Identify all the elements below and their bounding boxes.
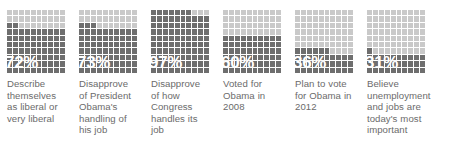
waffle-cell xyxy=(391,29,396,34)
waffle-cell xyxy=(258,36,263,41)
waffle-cell xyxy=(235,10,240,15)
waffle-cell xyxy=(132,55,137,60)
waffle-cell xyxy=(295,29,300,34)
waffle-cell xyxy=(336,61,341,66)
waffle-cell xyxy=(385,10,390,15)
stat-unit: 73% Disapprove of President Obama's hand… xyxy=(79,10,137,136)
stat-unit: 60% Voted for Obama in 2008 xyxy=(223,10,281,113)
waffle-cell xyxy=(109,23,114,28)
waffle-cell xyxy=(342,61,347,66)
waffle-cell xyxy=(379,42,384,47)
waffle-cell xyxy=(60,68,65,73)
waffle-cell xyxy=(60,23,65,28)
waffle-cell xyxy=(235,23,240,28)
waffle-cell xyxy=(402,10,407,15)
waffle-cell xyxy=(253,42,258,47)
waffle-grid: 60% xyxy=(223,10,281,73)
waffle-cell xyxy=(169,29,174,34)
waffle-cell xyxy=(132,16,137,21)
waffle-cell xyxy=(25,10,30,15)
waffle-cell xyxy=(120,48,125,53)
waffle-cell xyxy=(126,36,131,41)
waffle-cell xyxy=(204,68,209,73)
waffle-cell xyxy=(325,16,330,21)
waffle-cell xyxy=(37,29,42,34)
waffle-cell xyxy=(420,48,425,53)
waffle-cell xyxy=(270,16,275,21)
waffle-cell xyxy=(186,42,191,47)
waffle-cell xyxy=(103,10,108,15)
waffle-cell xyxy=(253,36,258,41)
waffle-cell xyxy=(342,42,347,47)
waffle-cell xyxy=(379,36,384,41)
waffle-cell xyxy=(186,36,191,41)
waffle-cell xyxy=(126,48,131,53)
waffle-cell xyxy=(198,23,203,28)
waffle-cell xyxy=(420,29,425,34)
stat-caption: Describe themselves as liberal or very l… xyxy=(7,78,65,124)
waffle-cell xyxy=(48,16,53,21)
waffle-cell xyxy=(408,42,413,47)
waffle-cell xyxy=(48,10,53,15)
waffle-cell xyxy=(402,36,407,41)
waffle-cell xyxy=(42,16,47,21)
waffle-cell xyxy=(114,42,119,47)
waffle-cell xyxy=(270,36,275,41)
waffle-cell xyxy=(241,10,246,15)
waffle-cell xyxy=(313,16,318,21)
waffle-cell xyxy=(367,16,372,21)
waffle-cell xyxy=(307,10,312,15)
waffle-cell xyxy=(223,36,228,41)
waffle-cell xyxy=(295,42,300,47)
waffle-cell xyxy=(247,23,252,28)
waffle-cell xyxy=(91,23,96,28)
waffle-cell xyxy=(120,68,125,73)
waffle-cell xyxy=(414,55,419,60)
waffle-cell xyxy=(126,29,131,34)
waffle-cell xyxy=(198,61,203,66)
waffle-cell xyxy=(198,29,203,34)
stat-value-label: 36% xyxy=(295,54,326,71)
waffle-cell xyxy=(391,36,396,41)
waffle-cell xyxy=(169,10,174,15)
waffle-cell xyxy=(25,42,30,47)
waffle-cell xyxy=(348,36,353,41)
stat-unit: 72% Describe themselves as liberal or ve… xyxy=(7,10,65,124)
waffle-cell xyxy=(241,36,246,41)
waffle-cell xyxy=(330,36,335,41)
waffle-cell xyxy=(348,55,353,60)
waffle-cell xyxy=(163,16,168,21)
waffle-cell xyxy=(258,23,263,28)
waffle-cell xyxy=(313,10,318,15)
waffle-cell xyxy=(264,36,269,41)
stat-unit: 97% Disapprove of how Congress handles i… xyxy=(151,10,209,136)
waffle-cell xyxy=(270,55,275,60)
waffle-cell xyxy=(330,29,335,34)
waffle-grid: 31% xyxy=(367,10,425,73)
waffle-cell xyxy=(85,23,90,28)
waffle-cell xyxy=(229,16,234,21)
waffle-cell xyxy=(342,55,347,60)
waffle-cell xyxy=(60,48,65,53)
waffle-cell xyxy=(367,23,372,28)
waffle-cell xyxy=(373,29,378,34)
waffle-cell xyxy=(181,42,186,47)
waffle-cell xyxy=(109,16,114,21)
waffle-cell xyxy=(336,55,341,60)
waffle-cell xyxy=(367,10,372,15)
waffle-cell xyxy=(7,36,12,41)
waffle-cell xyxy=(163,23,168,28)
waffle-cell xyxy=(169,16,174,21)
waffle-cell xyxy=(330,48,335,53)
waffle-cell xyxy=(385,36,390,41)
waffle-cell xyxy=(31,36,36,41)
waffle-cell xyxy=(186,16,191,21)
waffle-cell xyxy=(97,42,102,47)
waffle-cell xyxy=(54,10,59,15)
waffle-cell xyxy=(48,23,53,28)
waffle-cell xyxy=(31,23,36,28)
waffle-cell xyxy=(420,36,425,41)
waffle-cell xyxy=(319,29,324,34)
waffle-cell xyxy=(402,16,407,21)
waffle-cell xyxy=(126,55,131,60)
